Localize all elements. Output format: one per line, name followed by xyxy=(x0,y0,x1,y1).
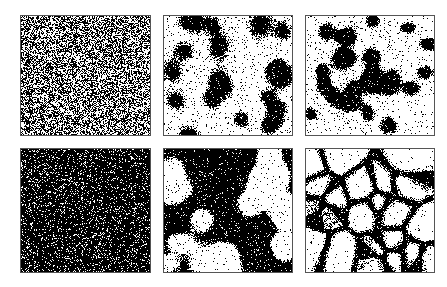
pattern-image xyxy=(21,149,150,272)
figure-panel-f xyxy=(305,148,435,273)
figure-panel-d xyxy=(20,148,151,273)
figure-panel-c xyxy=(305,15,435,136)
pattern-image xyxy=(164,16,292,135)
pattern-image xyxy=(306,16,434,135)
figure-panel-a xyxy=(20,15,151,136)
figure-panel-b xyxy=(163,15,293,136)
pattern-image xyxy=(21,16,150,135)
pattern-image xyxy=(306,149,434,272)
figure-panel-e xyxy=(163,148,293,273)
pattern-image xyxy=(164,149,292,272)
